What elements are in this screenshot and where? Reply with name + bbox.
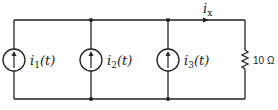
source-1-label: i1(t) bbox=[30, 53, 55, 70]
junction-dot bbox=[89, 97, 93, 101]
junction-dot bbox=[166, 18, 170, 22]
source-3-label: i3(t) bbox=[184, 53, 209, 70]
current-source-2 bbox=[80, 49, 102, 71]
current-source-1 bbox=[3, 49, 25, 71]
current-ix-label: ix bbox=[203, 1, 212, 18]
junction-dot bbox=[89, 18, 93, 22]
resistor-symbol bbox=[242, 50, 248, 69]
source-2-label: i2(t) bbox=[107, 53, 132, 70]
junction-dot bbox=[166, 97, 170, 101]
circuit-diagram: i1(t) i2(t) i3(t) ix 10 Ω bbox=[0, 0, 278, 110]
resistor-label: 10 Ω bbox=[253, 55, 275, 66]
current-direction-arrow-icon bbox=[203, 18, 209, 23]
current-source-3 bbox=[157, 49, 179, 71]
